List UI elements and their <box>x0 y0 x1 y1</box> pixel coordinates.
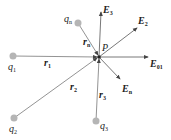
label-qn: qn <box>64 14 72 25</box>
label-r1: r1 <box>44 58 51 69</box>
r2-line <box>14 58 97 118</box>
charge-q2 <box>11 115 18 122</box>
label-En: En <box>122 84 132 95</box>
charge-qn <box>75 20 82 27</box>
charge-q3 <box>93 118 100 125</box>
r1-line <box>13 56 97 57</box>
point-p-label: P <box>102 43 108 53</box>
label-q2: q2 <box>9 124 17 135</box>
label-q3: q3 <box>100 121 108 132</box>
label-r3: r3 <box>99 90 106 101</box>
label-E2: E2 <box>138 16 148 27</box>
En-arrow <box>99 57 120 79</box>
point-p <box>97 55 101 59</box>
label-rn: rn <box>83 37 90 48</box>
E3-arrow <box>99 12 101 57</box>
label-E01: E01 <box>150 59 163 70</box>
label-E3: E3 <box>103 5 113 16</box>
label-r2: r2 <box>70 82 77 93</box>
charge-q1 <box>10 53 17 60</box>
label-q1: q1 <box>8 62 16 73</box>
